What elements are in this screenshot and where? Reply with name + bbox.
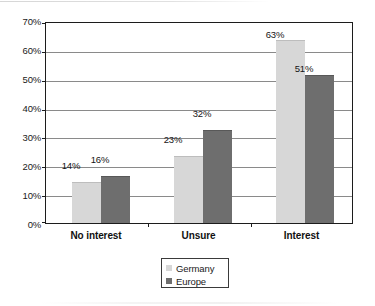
bar-unsure-germany[interactable] [174,156,203,223]
y-tick-50 [42,81,46,82]
y-tick-30 [42,138,46,139]
x-axis-label-unsure: Unsure [147,230,250,241]
bar-value-unsure-germany: 23% [158,135,188,145]
legend-swatch-europe-icon [166,278,172,284]
bar-value-no-interest-europe: 16% [85,155,115,165]
y-axis-label-70: 70% [23,17,41,27]
bar-value-unsure-europe: 32% [187,109,217,119]
legend-label-europe: Europe [176,276,206,287]
y-tick-20 [42,167,46,168]
y-axis-label-0: 0% [28,220,41,230]
x-tick-separator-1 [148,223,149,227]
legend-swatch-germany-icon [166,265,172,271]
y-tick-10 [42,196,46,197]
legend-label-germany: Germany [176,263,214,274]
grouped-bar-chart: 70% 60% 50% 40% 30% 20% 10% 0% [0,0,375,306]
y-axis-label-60: 60% [23,46,41,56]
x-tick-separator-2 [251,223,252,227]
plot-area [45,22,353,224]
x-axis-label-no-interest: No interest [45,230,147,241]
legend-item-germany[interactable]: Germany [166,262,225,274]
x-axis-label-interest: Interest [250,230,353,241]
y-axis-label-10: 10% [23,191,41,201]
y-axis-label-50: 50% [23,75,41,85]
bar-no-interest-germany[interactable] [72,182,101,223]
y-tick-40 [42,110,46,111]
bar-unsure-europe[interactable] [203,130,232,223]
y-axis-label-40: 40% [23,104,41,114]
gridline-60 [46,52,352,53]
bar-no-interest-europe[interactable] [101,176,130,223]
y-axis-labels: 70% 60% 50% 40% 30% 20% 10% 0% [0,0,41,306]
bar-value-no-interest-germany: 14% [56,161,86,171]
y-axis-label-20: 20% [23,162,41,172]
y-axis-label-30: 30% [23,133,41,143]
y-tick-0 [42,222,46,223]
legend-item-europe[interactable]: Europe [166,275,225,287]
bar-value-interest-europe: 51% [289,64,319,74]
bar-interest-europe[interactable] [305,75,334,223]
bar-value-interest-germany: 63% [260,30,290,40]
chart-legend: Germany Europe [161,258,229,288]
y-tick-70 [42,23,46,24]
y-tick-60 [42,52,46,53]
